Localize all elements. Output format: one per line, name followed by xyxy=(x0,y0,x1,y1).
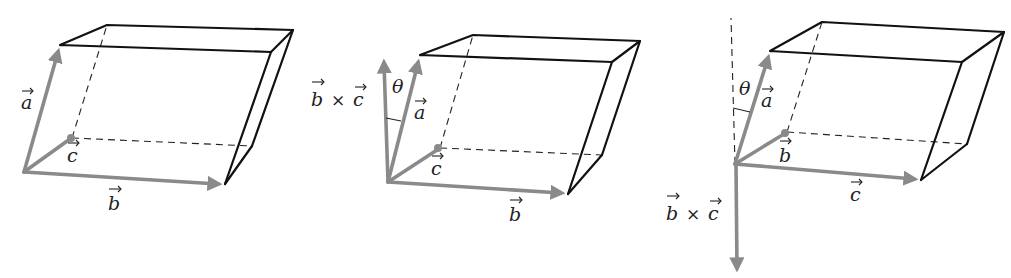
label-vector-a: a xyxy=(414,98,426,123)
vector-b-cross-c-arrow xyxy=(384,63,388,182)
svg-text:c: c xyxy=(850,183,861,205)
vector-b-cross-c-arrow xyxy=(736,164,737,268)
vector-b-arrow xyxy=(24,172,218,184)
figure-2-parallelepiped-with-normal: b × c θ a c b xyxy=(311,35,640,225)
vector-c-head xyxy=(67,134,75,142)
label-vector-b: b xyxy=(779,138,791,166)
angle-theta-marker xyxy=(733,108,750,112)
svg-text:b: b xyxy=(311,88,323,110)
hidden-edge xyxy=(440,35,473,148)
back-right-edge xyxy=(602,41,640,155)
svg-text:a: a xyxy=(761,89,772,111)
label-b-cross-c: b × c xyxy=(311,79,366,110)
svg-text:b: b xyxy=(666,202,678,224)
label-vector-b: b xyxy=(108,186,121,214)
hidden-edge xyxy=(72,25,107,138)
vector-c-arrow xyxy=(735,164,914,179)
svg-text:b: b xyxy=(108,192,120,214)
hidden-edge xyxy=(72,138,252,146)
svg-text:a: a xyxy=(21,91,32,113)
top-face-edges xyxy=(420,35,640,62)
label-b-cross-c: b × c xyxy=(666,193,721,224)
svg-text:c: c xyxy=(353,88,364,110)
figure-3-parallelepiped-with-downward-normal: θ a b c b × c xyxy=(666,18,1004,268)
svg-text:c: c xyxy=(431,157,442,179)
label-vector-c: c xyxy=(431,153,443,179)
angle-theta-marker xyxy=(386,118,401,121)
normal-extension-dashed xyxy=(731,18,735,164)
parallelepiped-diagrams: a c b b × c θ xyxy=(0,0,1011,278)
vector-b-head xyxy=(781,129,789,137)
label-theta: θ xyxy=(392,75,404,97)
svg-text:c: c xyxy=(67,144,78,166)
svg-text:×: × xyxy=(331,90,345,110)
svg-text:a: a xyxy=(414,101,425,123)
bottom-right-edge xyxy=(225,146,252,184)
label-vector-c: c xyxy=(67,140,79,166)
label-vector-a: a xyxy=(761,86,773,111)
hidden-edge xyxy=(787,132,967,144)
top-face-edges xyxy=(60,25,293,52)
front-right-edge xyxy=(568,62,612,194)
bottom-right-edge xyxy=(568,155,602,194)
label-vector-a: a xyxy=(21,88,33,113)
vector-b-arrow xyxy=(388,182,561,193)
front-right-edge xyxy=(225,52,271,184)
hidden-edge xyxy=(440,148,602,155)
svg-text:b: b xyxy=(779,144,791,166)
figure-1-parallelepiped: a c b xyxy=(21,25,293,214)
back-right-edge xyxy=(967,32,1004,144)
svg-text:b: b xyxy=(509,203,521,225)
vector-c-head xyxy=(434,144,442,152)
front-right-edge xyxy=(921,62,962,180)
top-face-edges xyxy=(770,22,1004,62)
label-vector-c: c xyxy=(850,179,862,205)
svg-text:×: × xyxy=(686,204,700,224)
label-theta: θ xyxy=(739,77,751,99)
svg-text:c: c xyxy=(708,202,719,224)
label-vector-b: b xyxy=(509,197,522,225)
